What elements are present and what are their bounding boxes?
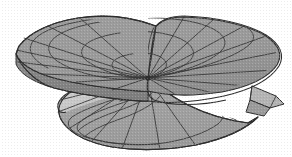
riemann-surface-figure: Riemann surface multi-sheeted spiral ram…	[0, 0, 292, 157]
riemann-surface-canvas	[0, 0, 292, 157]
branch-point-marker	[145, 75, 150, 80]
